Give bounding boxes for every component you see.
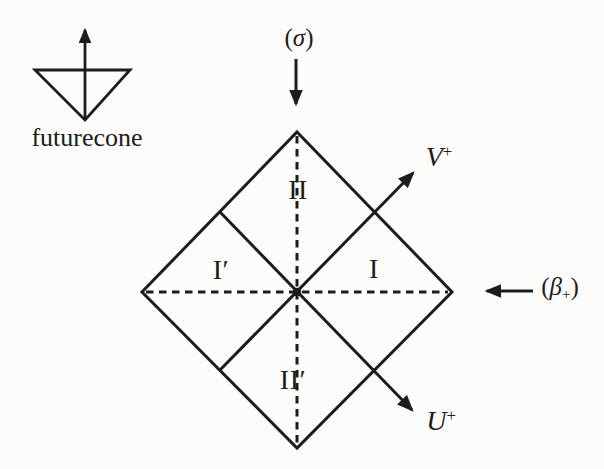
u-axis-letter: U bbox=[426, 405, 446, 436]
futurecone-triangle bbox=[35, 70, 130, 120]
futurecone-label: futurecone bbox=[31, 125, 142, 151]
v-axis-label: V+ bbox=[426, 143, 453, 171]
v-axis-superscript: + bbox=[443, 142, 452, 161]
u-axis-superscript: + bbox=[446, 406, 455, 425]
beta-close-paren: ) bbox=[570, 273, 578, 300]
region-label-II: II bbox=[288, 176, 308, 204]
sigma-symbol: σ bbox=[293, 24, 305, 51]
region-label-I-prime: I′ bbox=[213, 256, 229, 284]
futurecone-icon bbox=[35, 30, 130, 120]
diagram-canvas bbox=[0, 0, 604, 469]
beta-subscript: + bbox=[562, 286, 570, 302]
region-label-II-prime: II′ bbox=[280, 366, 306, 394]
v-axis-arrow bbox=[220, 173, 413, 370]
u-axis-arrow bbox=[220, 212, 412, 410]
sigma-close-paren: ) bbox=[305, 24, 313, 51]
conformal-diamond-figure: futurecone (σ) (β+) V+ U+ II I′ I II′ bbox=[0, 0, 604, 469]
origin-dot bbox=[293, 288, 301, 296]
v-axis-letter: V bbox=[426, 141, 443, 172]
region-label-I: I bbox=[369, 255, 379, 283]
u-axis-label: U+ bbox=[426, 407, 456, 435]
sigma-annotation: (σ) bbox=[285, 25, 314, 50]
beta-annotation: (β+) bbox=[541, 274, 579, 303]
beta-symbol: β bbox=[550, 273, 562, 300]
